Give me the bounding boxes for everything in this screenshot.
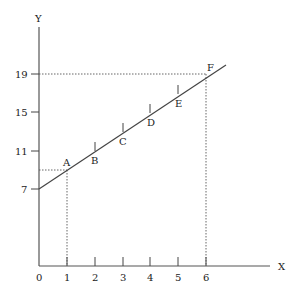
point-label-d: D: [147, 117, 155, 128]
svg-text:6: 6: [203, 272, 209, 283]
point-labels: A B C D E F: [62, 62, 214, 168]
y-ticks: [31, 74, 39, 189]
point-label-e: E: [175, 98, 182, 109]
line-chart: Y X 0 1 2 3 4 5 6 7 11 15 19: [0, 0, 300, 296]
svg-text:1: 1: [64, 272, 70, 283]
data-line: [39, 65, 226, 189]
x-axis-label: X: [278, 261, 286, 272]
y-tick-labels: 7 11 15 19: [15, 69, 28, 195]
point-markers: [95, 85, 178, 151]
y-axis-label: Y: [34, 13, 42, 24]
x-ticks: [67, 257, 206, 266]
svg-text:19: 19: [15, 69, 28, 80]
point-label-a: A: [62, 157, 71, 168]
svg-text:4: 4: [147, 272, 153, 283]
svg-text:5: 5: [175, 272, 181, 283]
svg-text:0: 0: [36, 272, 42, 283]
svg-text:7: 7: [21, 184, 27, 195]
x-tick-labels: 0 1 2 3 4 5 6: [36, 272, 209, 283]
point-label-f: F: [207, 62, 214, 73]
svg-text:11: 11: [15, 146, 28, 157]
point-label-c: C: [119, 136, 127, 147]
svg-text:2: 2: [92, 272, 98, 283]
svg-text:15: 15: [15, 107, 28, 118]
point-label-b: B: [91, 155, 98, 166]
svg-text:3: 3: [120, 272, 126, 283]
